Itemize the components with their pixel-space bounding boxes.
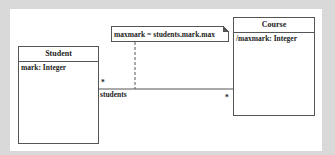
class-student-attribute: mark: Integer — [19, 62, 98, 73]
student-end-multiplicity: * — [101, 78, 105, 87]
note-folded-corner-icon — [223, 26, 229, 32]
class-course[interactable]: Course /maxmark: Integer — [233, 17, 315, 116]
course-end-multiplicity: * — [225, 93, 229, 102]
class-student-name: Student — [19, 47, 98, 62]
class-course-attribute: /maxmark: Integer — [234, 33, 314, 44]
class-student[interactable]: Student mark: Integer — [18, 46, 99, 144]
class-course-name: Course — [234, 18, 314, 33]
student-end-role: students — [100, 90, 127, 99]
constraint-note[interactable]: maxmark = students.mark.max — [111, 26, 229, 42]
